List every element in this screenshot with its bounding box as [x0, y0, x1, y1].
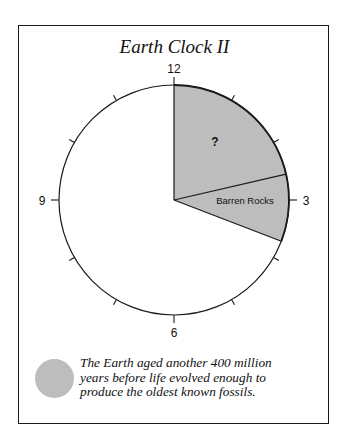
minor-tick: [69, 140, 74, 143]
legend-line: produce the oldest known fossils.: [80, 385, 300, 400]
legend-line: years before life evolved enough to: [80, 371, 300, 386]
shaded-wedge: [174, 85, 289, 241]
wedge-label-barren-rocks: Barren Rocks: [216, 195, 274, 206]
minor-tick: [69, 258, 74, 261]
minor-tick: [232, 300, 235, 305]
hour-label-9: 9: [39, 194, 46, 208]
hour-label-12: 12: [167, 62, 181, 76]
legend-caption: The Earth aged another 400 million years…: [80, 356, 300, 400]
minor-tick: [114, 95, 117, 100]
minor-tick: [114, 300, 117, 305]
hour-label-6: 6: [171, 326, 178, 340]
legend-line: The Earth aged another 400 million: [80, 356, 300, 371]
minor-tick: [232, 95, 235, 100]
minor-tick: [274, 140, 279, 143]
minor-tick: [274, 258, 279, 261]
legend-swatch: [35, 359, 74, 398]
hour-label-3: 3: [303, 194, 310, 208]
wedge-label-unknown: ?: [211, 135, 218, 149]
